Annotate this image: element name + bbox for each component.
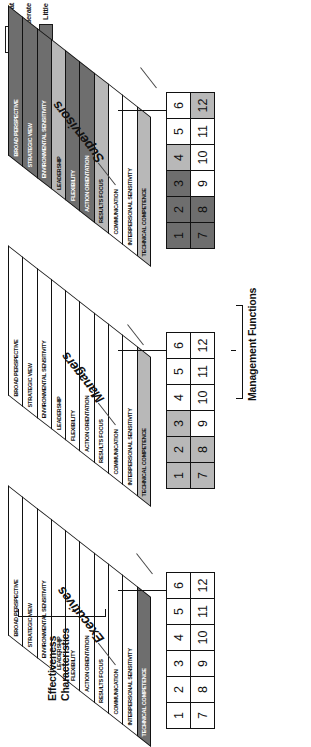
grid-cell: 9	[191, 651, 215, 677]
characteristic-label: ENVIRONMENTAL SENSITIVITY	[41, 341, 47, 419]
management-functions-brace	[236, 305, 243, 399]
characteristic-label: COMMUNICATION	[113, 189, 119, 234]
characteristic-band: INTERPERSONAL SENSITIVITY	[122, 335, 136, 496]
block-edge	[118, 110, 166, 111]
grid-cell: 6	[167, 93, 191, 119]
effectiveness-label-line2: Characteristics	[59, 628, 71, 701]
block-edge	[118, 590, 166, 591]
grid-cell: 8	[191, 437, 215, 463]
characteristic-band: ENVIRONMENTAL SENSITIVITY	[37, 28, 51, 189]
grid-cell: 10	[191, 145, 215, 171]
characteristic-band: STRATEGIC VIEW	[22, 496, 36, 657]
grid-cell: 11	[191, 119, 215, 145]
block-edge	[118, 350, 166, 351]
characteristic-label: TECHNICAL COMPETENCE	[141, 188, 147, 256]
characteristic-label: FLEXIBILITY	[70, 410, 76, 441]
characteristic-label: BROAD PERSPECTIVE	[13, 579, 19, 636]
characteristic-label: LEADERSHIP	[56, 156, 62, 190]
grid-cell: 2	[167, 437, 191, 463]
grid-cell: 4	[167, 625, 191, 651]
grid-row: 789101112	[191, 573, 215, 729]
grid-cell: 4	[167, 385, 191, 411]
grid-cell: 2	[167, 677, 191, 703]
characteristic-label: INTERPERSONAL SENSITIVITY	[127, 648, 133, 725]
grid-cell: 8	[191, 677, 215, 703]
characteristic-band: COMMUNICATION	[108, 323, 122, 484]
grid-row: 123456	[167, 93, 191, 249]
effectiveness-bracket	[18, 609, 106, 617]
grid-cell: 10	[191, 625, 215, 651]
characteristic-label: BROAD PERSPECTIVE	[13, 339, 19, 396]
grid-cell: 7	[191, 463, 215, 489]
characteristic-band: INTERPERSONAL SENSITIVITY	[122, 575, 136, 736]
grid-cell: 12	[191, 333, 215, 359]
characteristic-band: BROAD PERSPECTIVE	[8, 5, 22, 166]
grid-cell: 11	[191, 599, 215, 625]
grid-cell: 3	[167, 171, 191, 197]
characteristic-band: BROAD PERSPECTIVE	[8, 245, 22, 406]
grid-cell: 1	[167, 703, 191, 729]
characteristic-label: BROAD PERSPECTIVE	[13, 99, 19, 156]
characteristic-band: STRATEGIC VIEW	[22, 16, 36, 177]
grid-cell: 8	[191, 197, 215, 223]
grid-cell: 9	[191, 411, 215, 437]
management-functions-brace-tip	[231, 350, 236, 355]
effectiveness-label-line1: Effectiveness	[46, 636, 58, 701]
grid-cell: 7	[191, 223, 215, 249]
grid-row: 789101112	[191, 333, 215, 489]
grid-cell: 4	[167, 145, 191, 171]
characteristic-label: ENVIRONMENTAL SENSITIVITY	[41, 101, 47, 179]
characteristic-band: TECHNICAL COMPETENCE	[137, 106, 151, 267]
grid-row: 789101112	[191, 93, 215, 249]
characteristic-label: LEADERSHIP	[56, 396, 62, 430]
grid-row: 123456	[167, 333, 191, 489]
grid-cell: 3	[167, 411, 191, 437]
panel-managers: BROAD PERSPECTIVESTRATEGIC VIEWENVIRONME…	[8, 239, 308, 489]
grid-cell: 10	[191, 385, 215, 411]
characteristic-label: TECHNICAL COMPETENCE	[141, 428, 147, 496]
management-functions-grid-supervisors: 123456789101112	[166, 92, 215, 249]
characteristic-label: INTERPERSONAL SENSITIVITY	[127, 168, 133, 245]
characteristic-band: COMMUNICATION	[108, 563, 122, 724]
grid-cell: 1	[167, 223, 191, 249]
characteristic-band: TECHNICAL COMPETENCE	[137, 346, 151, 507]
grid-row: 123456	[167, 573, 191, 729]
panel-supervisors: BROAD PERSPECTIVESTRATEGIC VIEWENVIRONME…	[8, 0, 308, 249]
characteristic-band: ENVIRONMENTAL SENSITIVITY	[37, 268, 51, 429]
grid-cell: 12	[191, 93, 215, 119]
characteristic-label: STRATEGIC VIEW	[27, 363, 33, 407]
grid-cell: 11	[191, 359, 215, 385]
grid-cell: 5	[167, 359, 191, 385]
characteristic-band: COMMUNICATION	[108, 83, 122, 244]
characteristic-band: STRATEGIC VIEW	[22, 256, 36, 417]
management-functions-grid-managers: 123456789101112	[166, 332, 215, 489]
grid-cell: 6	[167, 573, 191, 599]
characteristic-label: ACTION ORIENTATION	[84, 156, 90, 212]
characteristic-label: RESULTS FOCUS	[98, 420, 104, 464]
characteristic-band: INTERPERSONAL SENSITIVITY	[122, 95, 136, 256]
characteristic-label: RESULTS FOCUS	[98, 180, 104, 224]
characteristic-label: INTERPERSONAL SENSITIVITY	[127, 408, 133, 485]
characteristic-label: TECHNICAL COMPETENCE	[141, 668, 147, 736]
grid-cell: 1	[167, 463, 191, 489]
management-functions-grid-executives: 123456789101112	[166, 572, 215, 729]
grid-cell: 2	[167, 197, 191, 223]
characteristic-label: COMMUNICATION	[113, 429, 119, 474]
characteristic-label: RESULTS FOCUS	[98, 660, 104, 704]
characteristic-label: COMMUNICATION	[113, 669, 119, 714]
characteristic-label: ACTION ORIENTATION	[84, 636, 90, 692]
characteristic-band: TECHNICAL COMPETENCE	[137, 586, 151, 747]
characteristic-label: ACTION ORIENTATION	[84, 396, 90, 452]
characteristic-label: FLEXIBILITY	[70, 170, 76, 201]
grid-cell: 5	[167, 599, 191, 625]
grid-cell: 9	[191, 171, 215, 197]
grid-cell: 12	[191, 573, 215, 599]
grid-cell: 3	[167, 651, 191, 677]
grid-cell: 7	[191, 703, 215, 729]
grid-cell: 5	[167, 119, 191, 145]
management-functions-label: Management Functions	[246, 288, 258, 401]
characteristic-label: STRATEGIC VIEW	[27, 123, 33, 167]
characteristic-band: BROAD PERSPECTIVE	[8, 485, 22, 646]
